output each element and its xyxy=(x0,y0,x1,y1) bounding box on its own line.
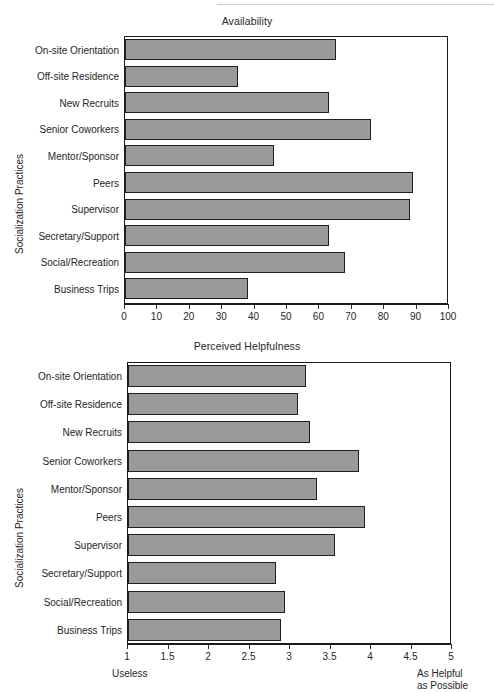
x-axis-tick xyxy=(286,304,287,309)
x-axis-tick-label: 40 xyxy=(248,311,259,322)
x-axis-tick-label: 3 xyxy=(286,651,292,662)
x-axis-tick xyxy=(448,304,449,309)
bar-group-availability: On-site OrientationOff-site ResidenceNew… xyxy=(125,37,447,303)
x-axis-tick-label: 60 xyxy=(313,311,324,322)
x-axis-tick-label: 100 xyxy=(440,311,457,322)
bar-row: Business Trips xyxy=(125,278,447,299)
bar-row: Senior Coworkers xyxy=(125,119,447,140)
chart-title-perceived-helpfulness: Perceived Helpfulness xyxy=(0,340,494,352)
y-axis-label-availability: Socialization Practices xyxy=(14,154,25,254)
bar xyxy=(128,506,365,528)
x-axis-tick-label: 2 xyxy=(205,651,211,662)
x-axis-tick xyxy=(411,644,412,649)
bar-row: Secretary/Support xyxy=(125,225,447,246)
x-axis-tick-label: 80 xyxy=(378,311,389,322)
x-axis-tick-label: 4 xyxy=(367,651,373,662)
category-label: Off-site Residence xyxy=(40,400,128,410)
category-label: Social/Recreation xyxy=(44,598,128,608)
bar-row: Social/Recreation xyxy=(128,591,450,613)
category-label: New Recruits xyxy=(63,428,128,438)
x-axis-tick xyxy=(127,644,128,649)
x-axis-tick xyxy=(189,304,190,309)
x-axis-tick-label: 90 xyxy=(410,311,421,322)
category-label: Supervisor xyxy=(74,541,128,551)
x-axis-tick-label: 1 xyxy=(124,651,130,662)
bar xyxy=(125,145,274,166)
category-label: Peers xyxy=(96,513,128,523)
x-axis-tick xyxy=(221,304,222,309)
x-axis-tick xyxy=(124,304,125,309)
bar xyxy=(128,562,276,584)
x-axis-tick xyxy=(416,304,417,309)
bar-row: Off-site Residence xyxy=(125,66,447,87)
scan-artifact-line xyxy=(217,4,494,5)
bar-row: Off-site Residence xyxy=(128,393,450,415)
bar xyxy=(125,172,413,193)
bar-row: Social/Recreation xyxy=(125,252,447,273)
bar xyxy=(125,39,336,60)
x-axis-tick xyxy=(383,304,384,309)
bar xyxy=(125,66,238,87)
category-label: Social/Recreation xyxy=(41,258,125,268)
x-axis-tick xyxy=(330,644,331,649)
category-label: Peers xyxy=(93,179,125,189)
bar xyxy=(128,393,298,415)
x-axis-tick xyxy=(254,304,255,309)
category-label: Supervisor xyxy=(71,205,125,215)
bar-row: Peers xyxy=(128,506,450,528)
x-axis-tick-label: 50 xyxy=(280,311,291,322)
bar xyxy=(125,119,371,140)
x-axis-tick xyxy=(249,644,250,649)
bar xyxy=(125,252,345,273)
category-label: Senior Coworkers xyxy=(40,125,125,135)
category-label: Mentor/Sponsor xyxy=(51,485,128,495)
bar xyxy=(128,619,281,641)
plot-area-availability: On-site OrientationOff-site ResidenceNew… xyxy=(124,36,448,304)
bar-row: New Recruits xyxy=(125,92,447,113)
axis-endpoint-label-left: Useless xyxy=(112,668,148,680)
category-label: New Recruits xyxy=(60,99,125,109)
bar-row: Secretary/Support xyxy=(128,562,450,584)
bar-row: Senior Coworkers xyxy=(128,450,450,472)
x-axis-tick-label: 1.5 xyxy=(161,651,175,662)
x-axis-tick-label: 20 xyxy=(183,311,194,322)
x-axis-tick xyxy=(370,644,371,649)
chart-title-availability: Availability xyxy=(0,15,494,27)
y-axis-label-helpfulness: Socialization Practices xyxy=(14,488,25,588)
x-axis-tick xyxy=(289,644,290,649)
bar xyxy=(128,534,335,556)
bar xyxy=(125,92,329,113)
bar-row: New Recruits xyxy=(128,421,450,443)
bar-row: Supervisor xyxy=(128,534,450,556)
axis-endpoint-label-right: As Helpful as Possible xyxy=(417,668,468,692)
category-label: Business Trips xyxy=(54,285,125,295)
bar-row: Business Trips xyxy=(128,619,450,641)
x-axis-tick-label: 30 xyxy=(216,311,227,322)
category-label: Secretary/Support xyxy=(38,232,125,242)
x-axis-tick-label: 10 xyxy=(151,311,162,322)
category-label: Mentor/Sponsor xyxy=(48,152,125,162)
category-label: On-site Orientation xyxy=(38,372,128,382)
x-axis-tick xyxy=(451,644,452,649)
bar xyxy=(128,478,317,500)
bar-group-helpfulness: On-site OrientationOff-site ResidenceNew… xyxy=(128,363,450,643)
x-axis-tick xyxy=(351,304,352,309)
x-axis-tick-label: 70 xyxy=(345,311,356,322)
axis-endpoint-label-right-line2: as Possible xyxy=(417,680,468,692)
bar xyxy=(125,225,329,246)
category-label: Secretary/Support xyxy=(41,569,128,579)
bar xyxy=(128,421,310,443)
plot-area-helpfulness: On-site OrientationOff-site ResidenceNew… xyxy=(127,362,451,644)
bar-row: Mentor/Sponsor xyxy=(128,478,450,500)
x-axis-tick xyxy=(208,644,209,649)
x-axis-tick-label: 4.5 xyxy=(404,651,418,662)
x-axis-tick-label: 0 xyxy=(121,311,127,322)
category-label: Off-site Residence xyxy=(37,72,125,82)
bar-row: On-site Orientation xyxy=(128,365,450,387)
bar-row: Supervisor xyxy=(125,199,447,220)
x-axis-tick-label: 5 xyxy=(448,651,454,662)
bar-row: On-site Orientation xyxy=(125,39,447,60)
bar xyxy=(128,450,359,472)
chart-perceived-helpfulness: Perceived Helpfulness Socialization Prac… xyxy=(0,338,494,673)
bar xyxy=(128,591,285,613)
